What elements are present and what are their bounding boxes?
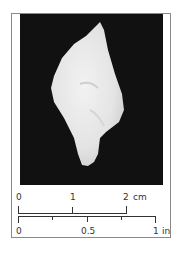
cm-label-0: 0 [16,192,22,202]
in-label-1: 1 [153,226,159,236]
in-unit-label: in [162,226,170,236]
cm-label-2: 2 [123,192,129,202]
cm-unit-label: cm [133,192,147,202]
cm-label-1: 1 [70,192,76,202]
scale-bar-lines [0,0,181,255]
in-label-0: 0 [16,226,22,236]
scale-bar: 0 1 2 cm 0 0.5 1 in [0,0,181,255]
in-label-half: 0.5 [81,226,95,236]
